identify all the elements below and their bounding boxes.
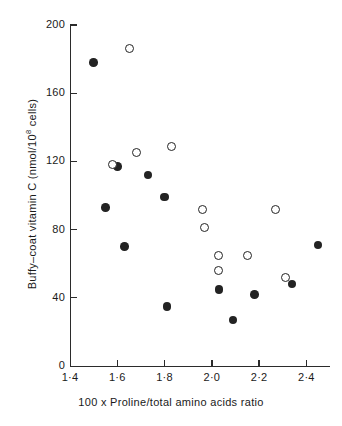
x-tick-mark bbox=[211, 360, 212, 366]
y-axis-title-suffix: cells) bbox=[26, 99, 38, 130]
open-circle-point bbox=[214, 266, 223, 275]
y-axis-title: Buffy–coat vitamin C (nmol/108 cells) bbox=[24, 34, 38, 354]
filled-circle-point bbox=[89, 58, 98, 67]
y-axis-title-wrapper: Buffy–coat vitamin C (nmol/108 cells) bbox=[24, 34, 40, 354]
open-circle-point bbox=[132, 148, 141, 157]
filled-circle-point bbox=[229, 316, 238, 325]
x-axis-title: 100 x Proline/total amino acids ratio bbox=[0, 396, 342, 408]
y-tick-label: 160 bbox=[46, 86, 65, 98]
x-axis-line bbox=[70, 366, 330, 367]
filled-circle-point bbox=[288, 280, 297, 289]
open-circle-point bbox=[271, 205, 280, 214]
x-tick-label: 1·4 bbox=[50, 371, 90, 383]
y-axis-title-prefix: Buffy–coat vitamin C (nmol/10 bbox=[26, 134, 38, 289]
open-circle-point bbox=[167, 142, 176, 151]
x-tick-mark bbox=[306, 360, 307, 366]
y-tick-label: 80 bbox=[52, 223, 65, 235]
y-tick-label: 200 bbox=[46, 18, 65, 30]
open-circle-point bbox=[198, 205, 207, 214]
x-tick-label: 1·6 bbox=[97, 371, 137, 383]
x-tick-label: 2·4 bbox=[286, 371, 326, 383]
filled-circle-point bbox=[314, 241, 323, 250]
y-tick-label: 0 bbox=[59, 359, 65, 371]
filled-circle-point bbox=[215, 285, 224, 294]
filled-circle-point bbox=[144, 171, 153, 180]
filled-circle-point bbox=[250, 290, 259, 299]
filled-circle-point bbox=[101, 203, 110, 212]
x-tick-label: 2·0 bbox=[192, 371, 232, 383]
open-circle-point bbox=[200, 223, 209, 232]
open-circle-point bbox=[281, 273, 290, 282]
open-circle-point bbox=[243, 251, 252, 260]
y-axis-title-exponent: 8 bbox=[24, 130, 33, 134]
filled-circle-point bbox=[160, 193, 169, 202]
open-circle-point bbox=[214, 251, 223, 260]
x-tick-label: 1·8 bbox=[145, 371, 185, 383]
scatter-plot-figure: 04080120160200 1·41·61·82·02·22·4 100 x … bbox=[0, 0, 342, 426]
filled-circle-point bbox=[163, 302, 172, 311]
open-circle-point bbox=[125, 44, 134, 53]
x-tick-label: 2·2 bbox=[239, 371, 279, 383]
y-tick-mark bbox=[70, 229, 77, 230]
filled-circle-point bbox=[120, 242, 129, 251]
y-tick-mark bbox=[70, 24, 77, 25]
y-tick-label: 40 bbox=[52, 291, 65, 303]
x-tick-mark bbox=[258, 360, 259, 366]
y-tick-label: 120 bbox=[46, 154, 65, 166]
x-tick-mark bbox=[164, 360, 165, 366]
y-axis-line bbox=[70, 25, 71, 366]
y-tick-mark bbox=[70, 161, 77, 162]
x-tick-mark bbox=[117, 360, 118, 366]
y-tick-mark bbox=[70, 297, 77, 298]
y-tick-mark bbox=[70, 93, 77, 94]
